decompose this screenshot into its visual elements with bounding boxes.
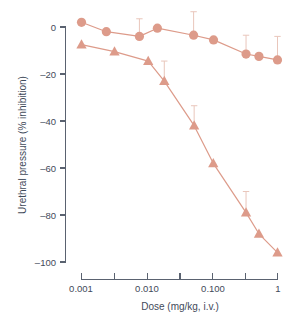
y-tick-label-0: 0 bbox=[51, 22, 56, 33]
series-line bbox=[82, 45, 278, 253]
data-point-triangle bbox=[208, 158, 218, 167]
data-point-circle bbox=[273, 55, 282, 64]
y-axis-title: Urethral pressure (% inhibition) bbox=[17, 76, 28, 214]
data-point-circle bbox=[153, 24, 162, 33]
data-point-circle bbox=[241, 49, 250, 58]
y-tick-label-m80: –80 bbox=[40, 210, 56, 221]
series-layer bbox=[76, 12, 282, 257]
y-tick-label-m40: –40 bbox=[40, 116, 56, 127]
y-tick-label-m20: –20 bbox=[40, 69, 56, 80]
series-triangles bbox=[76, 39, 282, 256]
data-point-triangle bbox=[254, 228, 264, 237]
data-point-circle bbox=[189, 31, 198, 40]
x-tick-label-0001: 0.001 bbox=[69, 283, 93, 294]
y-tick-label-m100: –100 bbox=[35, 257, 56, 268]
data-point-circle bbox=[135, 32, 144, 41]
data-point-triangle bbox=[76, 39, 86, 48]
data-point-circle bbox=[102, 27, 111, 36]
dose-response-plot: 0 –20 –40 –60 –80 –100 Urethral pressure… bbox=[0, 0, 294, 328]
x-tick-label-1: 1 bbox=[275, 283, 280, 294]
data-point-circle bbox=[209, 35, 218, 44]
y-tick-label-m60: –60 bbox=[40, 163, 56, 174]
data-point-circle bbox=[77, 18, 86, 27]
y-tick-marks bbox=[60, 27, 66, 262]
series-circles bbox=[77, 12, 282, 65]
x-tick-marks bbox=[82, 273, 278, 280]
x-tick-label-0010: 0.010 bbox=[135, 283, 159, 294]
x-tick-label-0100: 0.100 bbox=[201, 283, 225, 294]
data-point-triangle bbox=[241, 207, 251, 216]
data-point-triangle bbox=[189, 120, 199, 129]
data-point-circle bbox=[254, 52, 263, 61]
x-axis-title: Dose (mg/kg, i.v.) bbox=[141, 301, 219, 312]
chart-figure: 0 –20 –40 –60 –80 –100 Urethral pressure… bbox=[0, 0, 294, 328]
